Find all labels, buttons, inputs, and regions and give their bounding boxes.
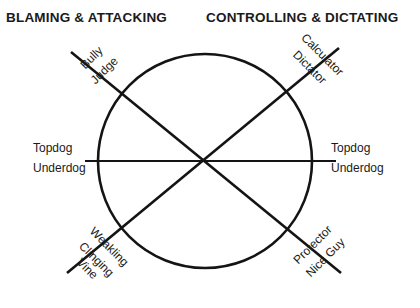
axis-label-left-underdog: Underdog <box>33 162 86 175</box>
axis-label-right-underdog: Underdog <box>331 162 384 175</box>
axis-label-left-topdog: Topdog <box>33 142 86 155</box>
axis-label-right: Topdog Underdog <box>331 142 384 174</box>
diagram-canvas: BLAMING & ATTACKING CONTROLLING & DICTAT… <box>0 0 420 308</box>
axis-label-right-topdog: Topdog <box>331 142 384 155</box>
axis-label-left: Topdog Underdog <box>33 142 86 174</box>
